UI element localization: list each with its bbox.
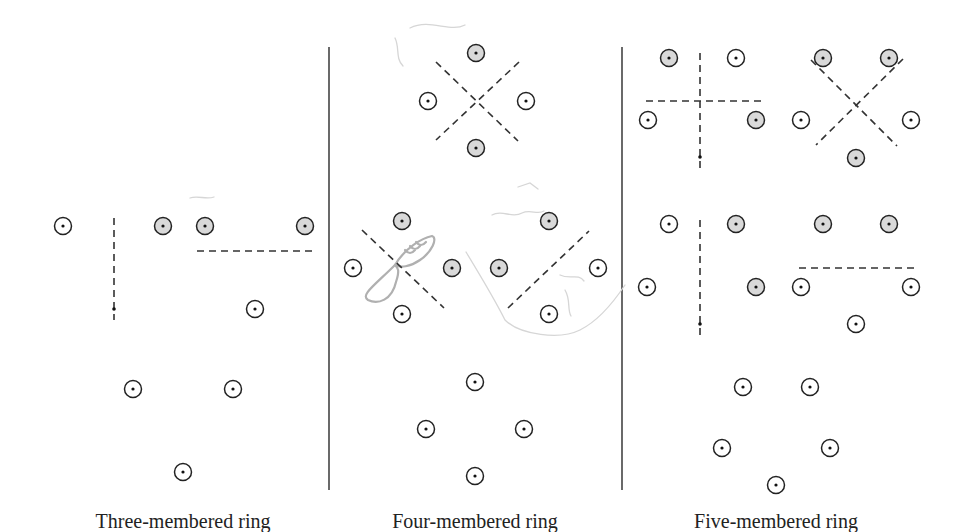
- open-atom-icon: [467, 468, 484, 485]
- open-atom-icon: [848, 316, 865, 333]
- orbital-pattern: [55, 218, 172, 321]
- open-atom-icon: [394, 306, 411, 323]
- shaded-atom-icon: [541, 213, 558, 230]
- orbital-pattern: [714, 379, 839, 494]
- open-atom-icon: [125, 381, 142, 398]
- open-atom-icon: [714, 440, 731, 457]
- open-atom-icon: [661, 216, 678, 233]
- open-atom-icon: [420, 93, 437, 110]
- shaded-atom-icon: [881, 50, 898, 67]
- open-atom-icon: [728, 50, 745, 67]
- open-atom-icon: [175, 464, 192, 481]
- open-atom-icon: [541, 306, 558, 323]
- open-atom-icon: [247, 301, 264, 318]
- shaded-atom-icon: [297, 218, 314, 235]
- nodal-plane-line: [362, 230, 444, 308]
- open-atom-icon: [639, 279, 656, 296]
- open-atom-icon: [225, 381, 242, 398]
- open-atom-icon: [467, 374, 484, 391]
- shaded-atom-icon: [444, 260, 461, 277]
- shaded-atom-icon: [155, 218, 172, 235]
- nodal-plane-line: [811, 60, 897, 146]
- open-atom-icon: [640, 112, 657, 129]
- shaded-atom-icon: [394, 213, 411, 230]
- open-atom-icon: [518, 93, 535, 110]
- shaded-atom-icon: [728, 216, 745, 233]
- open-atom-icon: [735, 379, 752, 396]
- shaded-atom-icon: [748, 279, 765, 296]
- shaded-atom-icon: [848, 150, 865, 167]
- pencil-scribble: [190, 24, 625, 335]
- axis-dot: [698, 155, 702, 159]
- axis-dot: [698, 322, 702, 326]
- panel-five-membered-ring: [639, 50, 920, 494]
- panel-three-membered-ring: [55, 218, 315, 481]
- shaded-atom-icon: [661, 50, 678, 67]
- orbital-pattern: [793, 50, 920, 167]
- panel-four-membered-ring: [345, 45, 607, 485]
- shaded-atom-icon: [491, 260, 508, 277]
- shaded-atom-icon: [468, 140, 485, 157]
- caption-three-membered-ring: Three-membered ring: [96, 510, 271, 532]
- nodal-plane-line: [508, 231, 589, 308]
- orbital-pattern: [197, 218, 315, 318]
- nodal-plane-line: [816, 59, 903, 145]
- axis-dot: [112, 307, 116, 311]
- shaded-atom-icon: [815, 216, 832, 233]
- open-atom-icon: [793, 112, 810, 129]
- open-atom-icon: [822, 440, 839, 457]
- shaded-atom-icon: [881, 216, 898, 233]
- open-atom-icon: [418, 421, 435, 438]
- ring-orbital-diagram: Three-membered ring Four-membered ring F…: [0, 0, 966, 532]
- caption-four-membered-ring: Four-membered ring: [392, 510, 558, 532]
- open-atom-icon: [903, 112, 920, 129]
- open-atom-icon: [903, 279, 920, 296]
- shaded-atom-icon: [748, 112, 765, 129]
- open-atom-icon: [55, 218, 72, 235]
- shaded-atom-icon: [197, 218, 214, 235]
- orbital-pattern: [125, 381, 242, 481]
- orbital-pattern: [793, 216, 920, 333]
- open-atom-icon: [793, 279, 810, 296]
- orbital-pattern: [420, 45, 535, 157]
- orbital-pattern: [491, 213, 607, 323]
- open-atom-icon: [802, 379, 819, 396]
- panels: [55, 45, 920, 494]
- caption-five-membered-ring: Five-membered ring: [694, 510, 858, 532]
- orbital-pattern: [639, 216, 765, 336]
- open-atom-icon: [590, 260, 607, 277]
- open-atom-icon: [516, 421, 533, 438]
- open-atom-icon: [345, 260, 362, 277]
- open-atom-icon: [768, 477, 785, 494]
- orbital-pattern: [418, 374, 533, 485]
- shaded-atom-icon: [468, 45, 485, 62]
- shaded-atom-icon: [815, 50, 832, 67]
- orbital-pattern: [640, 50, 765, 169]
